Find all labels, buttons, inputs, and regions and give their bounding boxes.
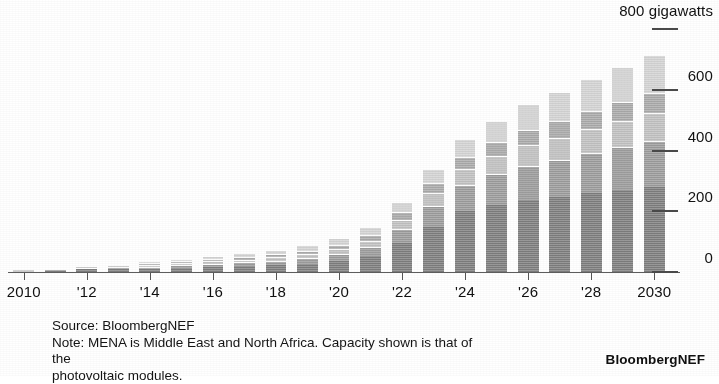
bloombergnef-logo: BloombergNEF	[606, 352, 705, 367]
x-axis-label-2018: '18	[266, 284, 286, 300]
bar-segment-2023-rest-of-world	[423, 206, 444, 227]
bar-segment-2019-us	[297, 251, 318, 255]
bar-segment-2014-india-mena	[139, 261, 160, 263]
bar-segment-2012-us	[76, 265, 97, 266]
bar-2017	[234, 253, 255, 273]
bar-2015	[171, 259, 192, 273]
bar-2021	[360, 227, 381, 273]
bar-segment-2017-rest-of-world	[234, 262, 255, 266]
bar-segment-2027-china	[549, 197, 570, 273]
x-axis-tick-2020	[339, 273, 340, 280]
bar-2028	[581, 79, 602, 273]
bar-segment-2028-india-mena	[581, 79, 602, 111]
bar-segment-2015-rest-of-world	[171, 265, 192, 268]
bar-2030	[644, 55, 665, 273]
bar-segment-2019-europe	[297, 254, 318, 258]
x-axis-label-2012: '12	[77, 284, 97, 300]
bar-segment-2015-india-mena	[171, 259, 192, 261]
bar-segment-2030-us	[644, 93, 665, 113]
bar-segment-2025-us	[486, 142, 507, 156]
bar-segment-2016-us	[203, 259, 224, 261]
bar-segment-2019-india-mena	[297, 245, 318, 250]
bar-segment-2025-india-mena	[486, 121, 507, 143]
bar-segment-2018-india-mena	[266, 250, 287, 254]
chart-canvas: 800 gigawatts 6004002000 2010'12'14'16'1…	[0, 0, 719, 310]
bar-segment-2019-rest-of-world	[297, 258, 318, 263]
bar-segment-2024-india-mena	[455, 139, 476, 157]
note-line-1: Note: MENA is Middle East and North Afri…	[52, 335, 482, 368]
bar-segment-2020-us	[329, 245, 350, 250]
bar-segment-2021-us	[360, 235, 381, 241]
x-axis-label-2028: '28	[581, 284, 601, 300]
bar-2029	[612, 67, 633, 273]
bar-segment-2025-europe	[486, 156, 507, 174]
bar-segment-2028-china	[581, 193, 602, 273]
x-axis-tick-2026	[528, 273, 529, 280]
bar-segment-2011-europe	[45, 268, 66, 270]
bar-segment-2029-rest-of-world	[612, 147, 633, 190]
x-axis-tick-2012	[87, 273, 88, 280]
bar-segment-2027-us	[549, 121, 570, 137]
bar-segment-2018-rest-of-world	[266, 261, 287, 266]
x-axis-tick-2030	[654, 273, 655, 280]
bar-segment-2021-rest-of-world	[360, 247, 381, 256]
x-axis-label-2010: 2010	[7, 284, 41, 300]
y-axis-label-400: 400	[688, 129, 713, 144]
bar-segment-2018-us	[266, 254, 287, 257]
bar-2027	[549, 92, 570, 273]
bar-segment-2012-rest-of-world	[76, 268, 97, 270]
bar-segment-2011-india-mena	[45, 266, 66, 267]
bar-segment-2012-europe	[76, 266, 97, 268]
bar-segment-2022-india-mena	[392, 202, 413, 213]
bar-segment-2030-europe	[644, 113, 665, 141]
x-axis-label-2024: '24	[455, 284, 475, 300]
bar-segment-2015-us	[171, 261, 192, 263]
bar-segment-2028-europe	[581, 129, 602, 153]
bar-2024	[455, 139, 476, 273]
bar-segment-2023-india-mena	[423, 169, 444, 184]
y-axis-tick-200	[652, 210, 678, 212]
y-axis-unit-label: 800 gigawatts	[619, 3, 713, 19]
bar-segment-2014-us	[139, 263, 160, 265]
bar-segment-2023-us	[423, 183, 444, 193]
chart-footer: Source: BloombergNEF Note: MENA is Middl…	[0, 318, 719, 376]
bar-segment-2022-china	[392, 243, 413, 273]
bar-segment-2020-rest-of-world	[329, 254, 350, 261]
bar-segment-2029-us	[612, 102, 633, 121]
bar-2025	[486, 121, 507, 273]
bar-segment-2027-rest-of-world	[549, 160, 570, 197]
bar-segment-2024-rest-of-world	[455, 185, 476, 211]
bar-segment-2029-china	[612, 190, 633, 273]
x-axis-label-2030: 2030	[637, 284, 671, 300]
x-axis-tick-2022	[402, 273, 403, 280]
bar-segment-2013-india-mena	[108, 263, 129, 264]
bar-segment-2016-europe	[203, 261, 224, 263]
bar-segment-2016-rest-of-world	[203, 264, 224, 267]
bar-2018	[266, 250, 287, 273]
bar-segment-2027-india-mena	[549, 92, 570, 121]
bar-segment-2013-us	[108, 264, 129, 265]
bar-2023	[423, 169, 444, 273]
bar-segment-2015-europe	[171, 263, 192, 265]
x-axis-tick-2028	[591, 273, 592, 280]
bar-segment-2013-rest-of-world	[108, 267, 129, 269]
y-axis: 800 gigawatts 6004002000	[676, 0, 719, 300]
bar-segment-2021-europe	[360, 241, 381, 248]
x-axis-tick-2014	[150, 273, 151, 280]
bar-segment-2022-us	[392, 212, 413, 220]
bar-segment-2021-china	[360, 256, 381, 273]
x-axis-label-2020: '20	[329, 284, 349, 300]
bar-segment-2024-us	[455, 157, 476, 169]
bar-segment-2022-rest-of-world	[392, 229, 413, 243]
bar-segment-2016-india-mena	[203, 256, 224, 259]
bar-segment-2020-europe	[329, 249, 350, 254]
source-line: Source: BloombergNEF	[52, 318, 482, 335]
bar-2019	[297, 245, 318, 273]
bar-segment-2026-china	[518, 200, 539, 273]
x-axis-tick-2024	[465, 273, 466, 280]
bar-segment-2029-india-mena	[612, 67, 633, 102]
bar-segment-2011-rest-of-world	[45, 269, 66, 270]
bar-segment-2013-europe	[108, 265, 129, 267]
bar-segment-2030-rest-of-world	[644, 141, 665, 187]
x-axis-label-2022: '22	[392, 284, 412, 300]
